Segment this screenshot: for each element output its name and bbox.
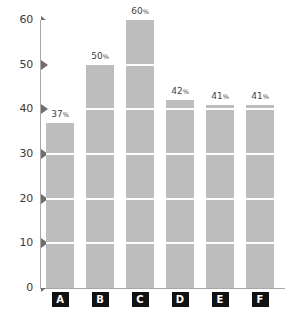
bar-value-number: 41 [251, 91, 262, 101]
bar-segment-divider [86, 108, 114, 110]
bar-segment-divider [126, 242, 154, 244]
bar-value-label: 42% [171, 86, 189, 97]
bar-value-label: 50% [91, 51, 109, 62]
bar-segment-divider [86, 242, 114, 244]
category-label-e[interactable]: E [212, 292, 229, 307]
bar-group[interactable]: 42% [166, 20, 194, 288]
x-axis-line [40, 288, 285, 289]
bar-segment-divider [246, 153, 274, 155]
bar-segment-divider [246, 198, 274, 200]
bar-segment-divider [86, 198, 114, 200]
bar-segment-divider [166, 198, 194, 200]
y-tick-label: 50 [19, 58, 33, 71]
bar-segment-divider [206, 242, 234, 244]
bar-d[interactable] [166, 100, 194, 288]
bar-value-label: 60% [131, 6, 149, 17]
bar-segment-divider [246, 108, 274, 110]
bar-value-number: 50 [91, 51, 102, 61]
bar-chart: 6050403020100 37%50%60%42%41%41% ABCDEF [0, 0, 295, 314]
bar-group[interactable]: 50% [86, 20, 114, 288]
y-tick-label: 20 [19, 192, 33, 205]
bar-segment-divider [166, 153, 194, 155]
bar-value-unit: % [183, 88, 189, 96]
bar-segment-divider [46, 242, 74, 244]
bar-segment-divider [126, 198, 154, 200]
y-tick-label: 40 [19, 102, 33, 115]
bar-value-number: 37 [51, 109, 62, 119]
bar-value-label: 41% [251, 91, 269, 102]
category-label-c[interactable]: C [132, 292, 149, 307]
bar-f[interactable] [246, 105, 274, 288]
bar-value-number: 41 [211, 91, 222, 101]
bar-value-label: 41% [211, 91, 229, 102]
bar-value-number: 60 [131, 6, 142, 16]
bar-segment-divider [126, 153, 154, 155]
plot-area: 37%50%60%42%41%41% [40, 20, 285, 288]
bar-e[interactable] [206, 105, 234, 288]
y-tick-label: 10 [19, 236, 33, 249]
y-tick-triangle-icon [41, 288, 46, 292]
bar-b[interactable] [86, 65, 114, 288]
bar-value-number: 42 [171, 86, 182, 96]
bar-segment-divider [246, 242, 274, 244]
bar-segment-divider [166, 242, 194, 244]
y-tick-label: 30 [19, 147, 33, 160]
bar-segment-divider [206, 153, 234, 155]
bar-segment-divider [86, 153, 114, 155]
bar-segment-divider [46, 198, 74, 200]
bar-value-label: 37% [51, 109, 69, 120]
category-label-a[interactable]: A [52, 292, 69, 307]
bar-segment-divider [206, 108, 234, 110]
y-tick-label: 60 [19, 13, 33, 26]
bar-group[interactable]: 60% [126, 20, 154, 288]
bar-segment-divider [206, 198, 234, 200]
bar-value-unit: % [63, 111, 69, 119]
y-tick-label: 0 [26, 281, 33, 294]
bar-segment-divider [126, 108, 154, 110]
bar-a[interactable] [46, 123, 74, 288]
bar-value-unit: % [143, 8, 149, 16]
bar-group[interactable]: 37% [46, 20, 74, 288]
bar-value-unit: % [223, 93, 229, 101]
bar-value-unit: % [103, 53, 109, 61]
bar-segment-divider [166, 108, 194, 110]
bar-value-unit: % [263, 93, 269, 101]
bar-c[interactable] [126, 20, 154, 288]
category-label-f[interactable]: F [252, 292, 269, 307]
bar-segment-divider [46, 153, 74, 155]
bar-group[interactable]: 41% [246, 20, 274, 288]
category-label-b[interactable]: B [92, 292, 109, 307]
bar-group[interactable]: 41% [206, 20, 234, 288]
bar-segment-divider [126, 64, 154, 66]
category-label-d[interactable]: D [172, 292, 189, 307]
